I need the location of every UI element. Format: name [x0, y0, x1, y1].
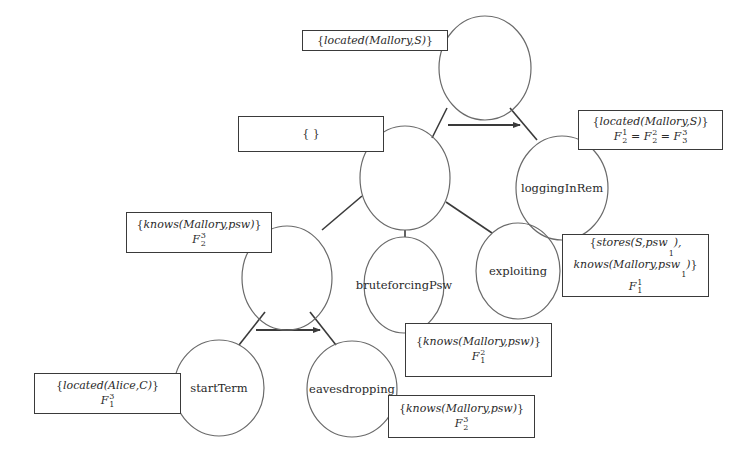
edge-root-loggingInRem	[510, 108, 537, 140]
edge-root-mid	[432, 108, 447, 138]
box-logging: {located(Mallory,S)}F12 = F22 = F33	[578, 110, 723, 150]
box-mid: { }	[238, 116, 384, 152]
node-label-bruteforcingPsw: bruteforcingPsw	[356, 278, 452, 292]
box-text-line: F12 = F22 = F33	[614, 129, 688, 145]
node-label-eavesdropping: eavesdropping	[309, 382, 395, 396]
node-label-exploiting: exploiting	[489, 264, 547, 278]
box-text-line: F32	[192, 232, 206, 248]
node-label-loggingInRem: loggingInRem	[521, 181, 603, 195]
box-text-line: F21	[472, 349, 486, 365]
box-start: {located(Alice,C)}F31	[34, 373, 181, 414]
box-text-line: {stores(S,psw1),	[589, 236, 681, 257]
box-left: {knows(Mallory,psw)}F32	[126, 212, 272, 253]
box-eaves: {knows(Mallory,psw)}F32	[388, 395, 535, 438]
node-label-startTerm: startTerm	[190, 381, 247, 395]
box-root: {located(Mallory,S)}	[302, 30, 448, 51]
box-text-line: {located(Alice,C)}	[56, 379, 159, 393]
box-text-line: {knows(Mallory,psw)}	[399, 402, 524, 416]
box-text-line: F31	[101, 393, 115, 409]
box-text-line: {located(Mallory,S)}	[593, 115, 709, 129]
edge-left-eavesdropping	[310, 312, 336, 345]
sequence-arrows	[256, 125, 520, 330]
box-text-line: {located(Mallory,S)}	[317, 34, 433, 48]
box-exploiting: {stores(S,psw1),knows(Mallory,psw1)}F11	[562, 234, 709, 297]
node-root	[439, 16, 531, 120]
box-text-line: knows(Mallory,psw1)}	[573, 258, 697, 279]
edge-mid-exploiting	[446, 202, 492, 233]
box-text-line: F11	[629, 279, 643, 295]
box-text-line: {knows(Mallory,psw)}	[416, 335, 541, 349]
edge-mid-left	[322, 196, 362, 230]
box-text-line: F32	[455, 416, 469, 432]
box-brute: {knows(Mallory,psw)}F21	[405, 323, 552, 377]
edge-left-startTerm	[239, 312, 265, 345]
box-text-line: { }	[302, 127, 320, 141]
box-text-line: {knows(Mallory,psw)}	[136, 218, 261, 232]
